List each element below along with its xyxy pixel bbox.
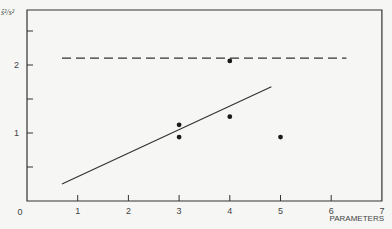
x-tick-label: 2	[126, 206, 131, 216]
x-tick-label: 5	[278, 206, 283, 216]
data-point	[227, 59, 232, 64]
data-points	[177, 59, 283, 140]
y-axis-ticks: 120	[14, 31, 33, 217]
x-tick-label: 4	[227, 206, 232, 216]
chart-canvas: 120 1234567 ŝ²/s² PARAMETERS	[0, 0, 392, 229]
y-tick-label: 2	[14, 60, 19, 70]
x-tick-label: 1	[75, 206, 80, 216]
plot-lines	[62, 58, 346, 184]
plot-border	[27, 10, 382, 201]
data-point	[278, 135, 283, 140]
data-point	[227, 114, 232, 119]
x-tick-label: 3	[177, 206, 182, 216]
origin-label: 0	[17, 207, 22, 217]
data-point	[177, 122, 182, 127]
fitted-trend-line	[62, 87, 271, 184]
data-point	[177, 135, 182, 140]
y-tick-label: 1	[14, 128, 19, 138]
x-axis-ticks: 1234567	[75, 195, 384, 216]
y-axis-label: ŝ²/s²	[1, 8, 15, 17]
x-axis-label: PARAMETERS	[329, 214, 384, 223]
plot-frame	[27, 10, 382, 201]
